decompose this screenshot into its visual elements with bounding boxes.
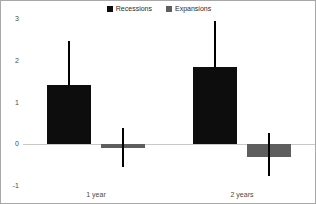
error-bar-expansions-1-year bbox=[122, 128, 124, 167]
x-tick-label: 1 year bbox=[56, 191, 136, 199]
y-tick-label: 3 bbox=[3, 15, 19, 22]
error-bar-recessions-1-year bbox=[68, 41, 70, 84]
legend-swatch-recessions bbox=[107, 6, 113, 12]
legend-label-recessions: Recessions bbox=[116, 5, 152, 13]
legend-label-expansions: Expansions bbox=[175, 5, 211, 13]
error-bar-expansions-2-years bbox=[268, 133, 270, 176]
x-tick-label: 2 years bbox=[202, 191, 282, 199]
legend-swatch-expansions bbox=[166, 6, 172, 12]
plot-area: 3210-1 1 year2 years bbox=[23, 19, 315, 186]
y-tick-label: 0 bbox=[3, 140, 19, 147]
bar-recessions-2-years bbox=[193, 67, 237, 144]
y-tick-label: 2 bbox=[3, 57, 19, 64]
chart-legend: Recessions Expansions bbox=[1, 5, 316, 13]
error-bar-recessions-2-years bbox=[214, 21, 216, 67]
y-tick-label: -1 bbox=[3, 182, 19, 189]
y-tick-label: 1 bbox=[3, 99, 19, 106]
chart-container: Recessions Expansions 3210-1 1 year2 yea… bbox=[0, 0, 316, 204]
legend-item-recessions: Recessions bbox=[107, 5, 152, 13]
legend-item-expansions: Expansions bbox=[166, 5, 211, 13]
bar-recessions-1-year bbox=[47, 85, 91, 145]
